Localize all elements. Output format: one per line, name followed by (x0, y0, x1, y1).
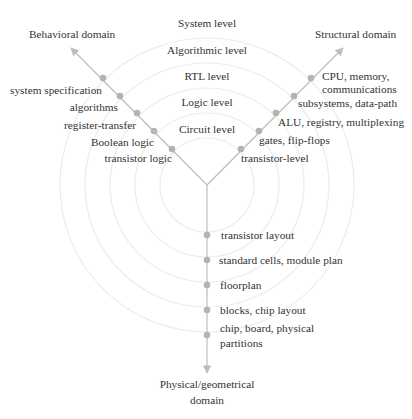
physical-domain-title-line1: Physical/geometrical (107, 378, 307, 391)
physical-item: chip, board, physical partitions (220, 322, 314, 350)
physical-item-line2: partitions (220, 337, 314, 350)
level-label-rtl: RTL level (107, 70, 307, 83)
structural-item: ALU, registry, multiplexing (278, 116, 404, 129)
dot-behavioral-1 (100, 75, 107, 82)
level-label-logic: Logic level (107, 96, 307, 109)
structural-domain-title: Structural domain (315, 28, 396, 41)
physical-item: transistor layout (221, 229, 294, 242)
physical-domain-title: Physical/geometrical domain (107, 378, 307, 407)
physical-item: floorplan (220, 279, 261, 292)
behavioral-item: system specification (10, 84, 102, 97)
dot-structural-1 (308, 75, 315, 82)
physical-item: standard cells, module plan (219, 254, 343, 267)
dot-physical-2 (204, 257, 211, 264)
dot-physical-1 (204, 232, 211, 239)
behavioral-item: register-transfer (64, 119, 136, 132)
structural-item: CPU, memory, communications (322, 70, 397, 96)
structural-item: gates, flip-flops (259, 134, 330, 147)
behavioral-item: transistor logic (105, 152, 172, 165)
structural-item: transistor-level (241, 152, 309, 165)
dot-physical-5 (204, 332, 211, 339)
dot-behavioral-3 (134, 110, 141, 117)
level-label-algorithmic: Algorithmic level (107, 44, 307, 57)
structural-item: subsystems, data-path (298, 97, 397, 110)
physical-item-line1: chip, board, physical (220, 322, 314, 335)
structural-item-line1: CPU, memory, (322, 70, 397, 83)
physical-domain-title-line2: domain (107, 394, 307, 407)
behavioral-item: algorithms (70, 101, 118, 114)
behavioral-domain-title: Behavioral domain (29, 28, 115, 41)
behavioral-item: Boolean logic (91, 136, 154, 149)
dot-physical-3 (204, 282, 211, 289)
structural-item-line2: communications (322, 83, 397, 96)
physical-item: blocks, chip layout (220, 304, 306, 317)
dot-physical-4 (204, 307, 211, 314)
level-label-system: System level (107, 17, 307, 30)
y-chart-graphic (0, 0, 412, 419)
